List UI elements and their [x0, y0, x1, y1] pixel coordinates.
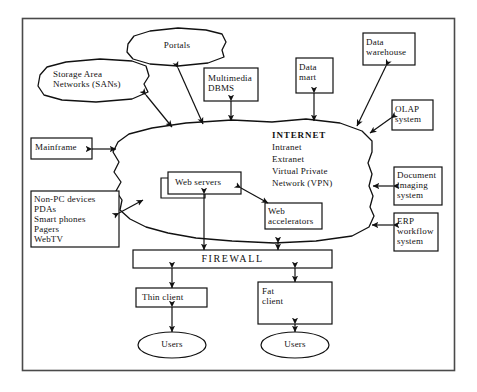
diagram-vector-layer: [0, 0, 477, 392]
connector-sans-internet: [146, 95, 172, 127]
web-servers-box: [168, 172, 241, 194]
users-thin-ellipse: [138, 332, 206, 358]
mainframe-box: [31, 138, 92, 159]
olap-system-box: [392, 100, 433, 130]
users-fat-ellipse: [261, 332, 329, 358]
connector-web-servers-internet: [241, 188, 268, 203]
firewall-box: [133, 250, 332, 268]
erp-workflow-system-box: [394, 213, 438, 251]
web-accelerators-box: [265, 203, 322, 229]
document-imaging-system-box: [394, 167, 442, 205]
diagram-canvas: Portals Storage Area Networks (SANs) INT…: [0, 0, 477, 392]
non-pc-devices-box: [31, 191, 119, 247]
connector-portals-internet: [178, 68, 203, 124]
data-warehouse-box: [363, 33, 415, 65]
portals-cloud-shape: [127, 28, 226, 66]
connector-olap-internet: [370, 118, 391, 133]
sans-cloud-shape: [38, 59, 149, 102]
data-mart-box: [296, 58, 333, 93]
multimedia-dbms-box: [204, 68, 258, 101]
internet-cloud-shape: [113, 119, 374, 243]
fat-client-box: [258, 282, 332, 324]
connector-data-warehouse-internet: [357, 66, 386, 126]
thin-client-box: [136, 288, 207, 307]
connector-non-pc-devices-internet: [119, 200, 143, 213]
